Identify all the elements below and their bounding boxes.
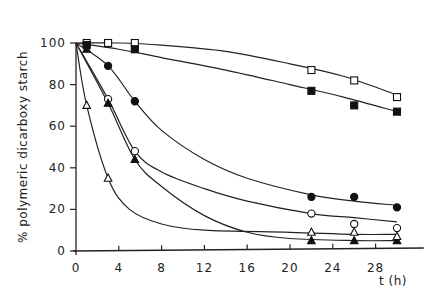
x-tick-label: 0 [72,261,81,275]
marker-filled-square [394,108,401,115]
marker-open-circle [351,220,358,227]
marker-open-square [394,94,401,101]
marker-open-circle [393,225,400,232]
x-tick-label: 4 [114,261,123,275]
y-tick-label: 80 [49,78,66,92]
x-axis-title: t (h) [379,274,407,288]
marker-open-triangle [393,232,401,239]
x-tick-label: 16 [239,261,256,275]
y-tick-label: 60 [49,119,66,133]
marker-filled-circle [105,62,112,69]
marker-open-square [351,77,358,84]
marker-filled-square [351,102,358,109]
y-tick-label: 20 [49,202,66,216]
data-curves [76,43,397,241]
marker-open-triangle [308,228,316,235]
y-tick-label: 40 [49,161,66,175]
x-tick-label: 12 [196,261,213,275]
marker-filled-square [131,46,138,53]
marker-filled-square [308,87,315,94]
x-tick-label: 8 [157,261,166,275]
marker-open-triangle [350,228,358,235]
x-tick-label: 24 [324,261,341,275]
marker-filled-circle [308,193,315,200]
y-axis-title: % polymeric dicarboxy starch [16,51,30,243]
curve-open-circle [76,43,397,222]
marker-filled-circle [131,98,138,105]
marker-open-triangle [83,101,91,108]
curve-filled-circle [76,43,397,205]
x-tick-label: 28 [367,261,384,275]
marker-open-circle [131,148,138,155]
marker-filled-circle [351,193,358,200]
y-tick-label: 100 [40,36,66,50]
marker-open-circle [308,210,315,217]
y-tick-label: 0 [57,244,66,258]
x-tick-label: 20 [281,261,298,275]
x-axis [73,248,424,251]
marker-open-square [105,40,112,47]
data-markers [83,40,401,244]
marker-open-triangle [104,174,112,181]
marker-open-square [308,67,315,74]
marker-filled-triangle [131,155,139,162]
marker-filled-circle [393,204,400,211]
chart: 0481216202428020406080100 % polymeric di… [0,0,434,303]
